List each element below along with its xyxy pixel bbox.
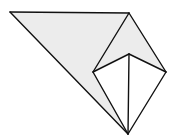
edge-line — [128, 54, 129, 134]
edge-line — [10, 12, 129, 13]
fold-diagram — [0, 0, 178, 139]
